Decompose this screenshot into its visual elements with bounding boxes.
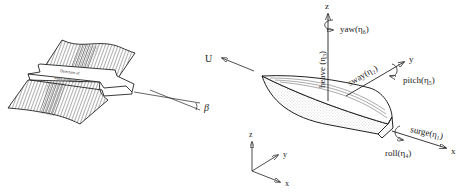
velocity-arrow bbox=[222, 58, 254, 71]
wave-heading-line bbox=[134, 92, 200, 103]
y-axis-label: y bbox=[409, 54, 414, 64]
yaw-rotation-icon bbox=[325, 20, 333, 30]
ref-y-label: y bbox=[283, 150, 287, 159]
z-axis-label: z bbox=[325, 1, 329, 11]
ship-diagram: U z yaw(η₆) heave (η₃) y sway(η₂) pitch(… bbox=[205, 1, 456, 158]
ref-x-label: x bbox=[285, 179, 289, 188]
x-axis-label: x bbox=[451, 146, 456, 156]
ref-x-axis bbox=[252, 171, 280, 182]
yaw-label: yaw(η₆) bbox=[340, 24, 369, 34]
roll-label: roll(η₄) bbox=[385, 148, 411, 158]
wave-field: Direction of wave propagation β bbox=[8, 40, 209, 124]
sway-label: sway(η₂) bbox=[346, 63, 379, 88]
ship-heading-line bbox=[150, 90, 200, 110]
diagram-canvas: Direction of wave propagation β U z yaw(… bbox=[0, 0, 459, 192]
velocity-label: U bbox=[205, 53, 213, 64]
beta-angle-label: β bbox=[203, 102, 209, 113]
reference-frame: z y x bbox=[249, 130, 289, 188]
ref-z-label: z bbox=[249, 130, 253, 139]
ref-y-axis bbox=[252, 155, 278, 171]
heave-label: heave (η₃) bbox=[317, 51, 327, 88]
pitch-rotation-icon bbox=[390, 64, 397, 76]
pitch-label: pitch(η₅) bbox=[403, 75, 435, 85]
